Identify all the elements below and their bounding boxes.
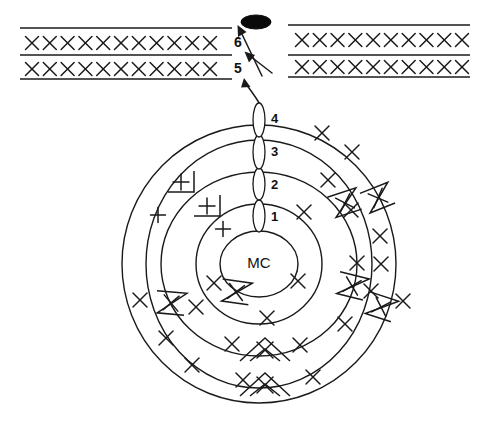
gate-3 [253, 135, 265, 169]
x-mark [297, 205, 311, 219]
band-x-mark [43, 63, 56, 76]
center-label: MC [247, 254, 270, 271]
band-x-mark [97, 37, 110, 50]
band-x-mark [384, 34, 397, 47]
band-x-mark [367, 61, 380, 74]
band-x-mark [296, 61, 309, 74]
x-bracket-mark [220, 279, 253, 305]
band-x-mark [115, 63, 128, 76]
band-x-mark [456, 34, 469, 47]
gate-label-4: 4 [271, 111, 279, 126]
band-x-mark [438, 61, 451, 74]
band-x-mark [456, 61, 469, 74]
symbol-marks [133, 126, 410, 396]
band-x-mark [43, 37, 56, 50]
band-x-mark [420, 61, 433, 74]
band-x-mark [402, 34, 415, 47]
gate-4 [253, 103, 265, 137]
annotation-arrows [238, 25, 273, 108]
band-x-mark [150, 37, 163, 50]
band-x-mark [79, 63, 92, 76]
band-x-mark [168, 63, 181, 76]
chevron-x-mark [240, 338, 290, 361]
x-mark [321, 173, 335, 187]
x-mark [306, 370, 320, 384]
band-x-mark [186, 63, 199, 76]
band-x-mark [313, 34, 326, 47]
gate-1 [253, 200, 265, 232]
band-x-mark [132, 63, 145, 76]
plus-bracket-mark [194, 195, 220, 216]
band-x-mark [97, 63, 110, 76]
band-x-mark [367, 34, 380, 47]
gate-label-2: 2 [271, 177, 278, 192]
x-mark [364, 284, 378, 298]
x-mark [374, 257, 388, 271]
band-x-mark [61, 63, 74, 76]
band-x-mark [132, 37, 145, 50]
band-x-mark [313, 61, 326, 74]
x-angle-bracket [220, 279, 253, 305]
band-label-5: 5 [234, 60, 242, 76]
x-mark [315, 126, 329, 140]
band-x-mark [204, 63, 217, 76]
band-x-mark [331, 34, 344, 47]
gate-label-1: 1 [271, 209, 278, 224]
plus-bracket-mark [168, 171, 194, 192]
band-x-mark [296, 34, 309, 47]
x-mark [345, 145, 359, 159]
x-bracket-mark [360, 182, 396, 214]
band-x-mark [384, 61, 397, 74]
plus-core [173, 174, 189, 190]
band-x-mark [204, 37, 217, 50]
band-x-mark [349, 34, 362, 47]
x-mark [373, 229, 387, 243]
band-x-mark [402, 61, 415, 74]
x-mark [236, 373, 250, 387]
band-x-mark [26, 37, 39, 50]
gate-2 [253, 168, 265, 200]
band-x-mark [26, 63, 39, 76]
x-angle-bracket [335, 272, 369, 301]
diagram-canvas: 65 1234 MC [0, 0, 486, 435]
band-x-mark [186, 37, 199, 50]
band-x-mark [150, 63, 163, 76]
plus-core [199, 198, 215, 214]
x-mark [133, 293, 147, 307]
x-bracket-mark [155, 291, 187, 316]
band-x-mark [420, 34, 433, 47]
filled-ellipse-marker [241, 15, 271, 29]
band-x-mark [115, 37, 128, 50]
x-mark [207, 276, 221, 290]
x-mark [189, 300, 203, 314]
x-angle-bracket [360, 182, 396, 214]
gate-label-3: 3 [271, 144, 278, 159]
x-angle-bracket [155, 291, 187, 316]
x-mark [185, 358, 199, 372]
diagonal-arrow-to-band-6 [240, 30, 262, 76]
x-mark [338, 317, 352, 331]
x-mark [159, 331, 173, 345]
band-x-mark [79, 37, 92, 50]
numbered-gates: 1234 [253, 103, 279, 232]
concentric-layer-diagram: 65 1234 MC [0, 0, 486, 435]
center-node: MC [247, 254, 270, 271]
curved-arrow-head [241, 78, 251, 88]
x-core [257, 377, 273, 393]
band-x-mark [438, 34, 451, 47]
filled-ellipse-marker [241, 15, 271, 29]
band-x-mark [331, 61, 344, 74]
band-x-mark [168, 37, 181, 50]
band-x-mark [349, 61, 362, 74]
x-bracket-mark [335, 272, 369, 301]
x-mark [225, 337, 239, 351]
band-x-mark [61, 37, 74, 50]
plus-mark [216, 222, 231, 237]
